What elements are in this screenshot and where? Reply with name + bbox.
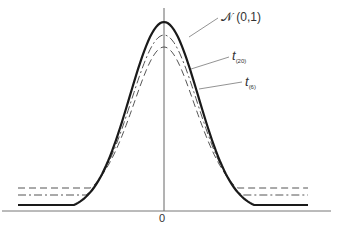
normal-curve — [18, 22, 308, 205]
normal-label: 𝒩 (0,1) — [221, 11, 261, 23]
t20-curve — [18, 35, 308, 195]
x-tick-zero: 0 — [159, 213, 165, 224]
t6-label: t(6) — [245, 75, 256, 88]
t20-leader-line — [191, 57, 229, 69]
t6-curve — [18, 47, 308, 188]
distribution-chart — [0, 0, 342, 227]
t20-label-sub: (20) — [236, 58, 247, 64]
t20-label: t(20) — [232, 49, 246, 62]
t6-label-sub: (6) — [249, 84, 256, 90]
normal-leader-line — [189, 18, 218, 37]
t6-leader-line — [199, 82, 242, 89]
